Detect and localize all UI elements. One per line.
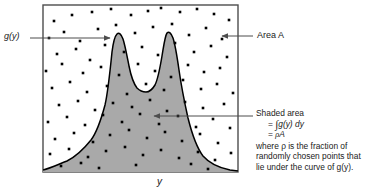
random-point — [217, 142, 220, 145]
random-point — [147, 10, 150, 13]
axis-label-y: y — [157, 176, 162, 187]
random-point — [171, 23, 174, 26]
callout-line-5: randomly chosen points that — [256, 151, 361, 162]
random-point — [160, 7, 163, 10]
random-point — [98, 167, 101, 170]
random-point — [66, 116, 69, 119]
random-point — [100, 66, 103, 69]
callout-line-4: where ρ is the fraction of — [256, 141, 361, 152]
random-point — [193, 51, 196, 54]
random-point — [134, 32, 137, 35]
random-point — [157, 54, 160, 57]
random-point — [142, 154, 145, 157]
random-point — [69, 81, 72, 84]
random-point — [213, 13, 216, 16]
random-point — [137, 63, 140, 66]
random-point — [163, 89, 166, 92]
random-point — [128, 129, 131, 132]
callout-integrand: g(y) dy — [278, 119, 304, 129]
random-point — [181, 140, 184, 143]
random-point — [73, 132, 76, 135]
random-point — [51, 87, 54, 90]
random-point — [188, 34, 191, 37]
random-point — [207, 168, 210, 171]
random-point — [210, 45, 213, 48]
random-point — [126, 93, 129, 96]
random-point — [105, 150, 108, 153]
callout-area-symbol: A — [279, 129, 285, 139]
random-point — [115, 24, 118, 27]
random-point — [200, 88, 203, 91]
random-point — [131, 106, 134, 109]
random-point — [68, 148, 71, 151]
random-point — [61, 63, 64, 66]
random-point — [212, 118, 215, 121]
random-point — [184, 101, 187, 104]
random-point — [89, 59, 92, 62]
random-point — [45, 70, 48, 73]
random-point — [135, 164, 138, 167]
random-point — [56, 53, 59, 56]
random-point — [166, 110, 169, 113]
random-point — [110, 8, 113, 11]
random-point — [47, 121, 50, 124]
random-point — [71, 14, 74, 17]
random-point — [124, 146, 127, 149]
random-point — [229, 127, 232, 130]
random-point — [195, 126, 198, 129]
random-point — [216, 83, 219, 86]
random-point — [179, 11, 182, 14]
random-point — [187, 64, 190, 67]
random-point — [232, 92, 235, 95]
random-point — [104, 44, 107, 47]
area-label: Area A — [257, 30, 284, 40]
random-point — [94, 109, 97, 112]
random-point — [170, 76, 173, 79]
random-point — [75, 48, 78, 51]
random-point — [178, 157, 181, 160]
random-point — [82, 72, 85, 75]
random-point — [205, 27, 208, 30]
random-point — [123, 51, 126, 54]
random-point — [160, 149, 163, 152]
random-point — [226, 56, 229, 59]
random-point — [84, 124, 87, 127]
random-point — [199, 133, 202, 136]
random-point — [149, 99, 152, 102]
random-point — [77, 100, 80, 103]
random-point — [79, 40, 82, 43]
random-point — [196, 8, 199, 11]
random-point — [63, 31, 66, 34]
random-point — [203, 71, 206, 74]
random-point — [106, 85, 109, 88]
random-point — [86, 91, 89, 94]
callout-line-2: = ∫g(y) dy — [256, 119, 361, 130]
random-point — [130, 14, 133, 17]
random-point — [87, 156, 90, 159]
shaded-area-callout: Shaded area = ∫g(y) dy = ρA where ρ is t… — [256, 108, 361, 172]
random-point — [141, 46, 144, 49]
random-point — [53, 20, 56, 23]
random-point — [91, 11, 94, 14]
random-point — [174, 42, 177, 45]
curve-label-gy: g(y) — [4, 31, 20, 41]
random-point — [54, 138, 57, 141]
callout-line-6: lie under the curve of g(y). — [256, 162, 361, 173]
random-point — [112, 102, 115, 105]
random-point — [164, 131, 167, 134]
random-point — [145, 83, 148, 86]
random-point — [92, 141, 95, 144]
random-point — [139, 113, 142, 116]
random-point — [80, 162, 83, 165]
random-point — [97, 28, 100, 31]
random-point — [221, 38, 224, 41]
random-point — [118, 74, 121, 77]
random-point — [49, 153, 52, 156]
random-point — [190, 163, 193, 166]
random-point — [197, 151, 200, 154]
callout-line-3: = ρA — [256, 129, 361, 141]
random-point — [228, 19, 231, 22]
random-point — [109, 134, 112, 137]
random-point — [182, 79, 185, 82]
random-point — [146, 137, 149, 140]
